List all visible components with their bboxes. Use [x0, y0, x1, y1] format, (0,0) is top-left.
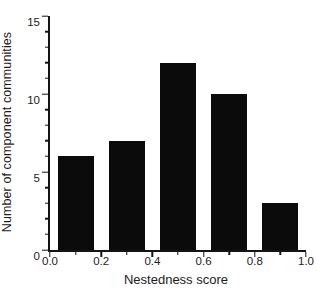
y-minor-tick [45, 156, 49, 157]
bar-0.2-0.4 [109, 141, 145, 250]
y-minor-tick [45, 125, 49, 126]
x-tick-label: 0.8 [247, 256, 263, 268]
x-minor-tick [75, 252, 76, 255]
y-minor-tick [45, 234, 49, 235]
y-tick-label: 5 [34, 172, 40, 184]
x-tick-label: 0.6 [196, 256, 212, 268]
bar-0.6-0.8 [211, 94, 247, 250]
y-minor-tick [45, 203, 49, 204]
x-minor-tick [228, 252, 229, 255]
y-minor-tick [45, 47, 49, 48]
x-minor-tick [280, 252, 281, 255]
y-major-tick [42, 93, 48, 94]
y-minor-tick [45, 187, 49, 188]
x-tick-label: 0.0 [42, 256, 58, 268]
y-tick-label: 0 [34, 250, 40, 262]
x-tick-label: 0.2 [93, 256, 109, 268]
x-tick-label: 0.4 [144, 256, 160, 268]
y-major-tick [42, 171, 48, 172]
y-minor-tick [45, 62, 49, 63]
bar-0.0-0.2 [58, 156, 94, 250]
y-minor-tick [45, 140, 49, 141]
bar-0.4-0.6 [160, 63, 196, 250]
y-axis-label: Number of component communities [0, 32, 14, 232]
bar-0.8-1.0 [262, 203, 298, 250]
y-tick-label: 10 [27, 94, 40, 106]
y-minor-tick [45, 109, 49, 110]
x-minor-tick [126, 252, 127, 255]
y-major-tick [42, 249, 48, 250]
y-minor-tick [45, 218, 49, 219]
histogram-figure: Number of component communities 0510150.… [0, 0, 316, 298]
y-major-tick [42, 15, 48, 16]
plot-area: 0510150.00.20.40.60.81.0 [48, 16, 306, 252]
y-minor-tick [45, 78, 49, 79]
y-tick-label: 15 [27, 16, 40, 28]
y-minor-tick [45, 31, 49, 32]
x-tick-label: 1.0 [298, 256, 314, 268]
x-axis-label: Nestedness score [124, 272, 228, 287]
x-minor-tick [177, 252, 178, 255]
